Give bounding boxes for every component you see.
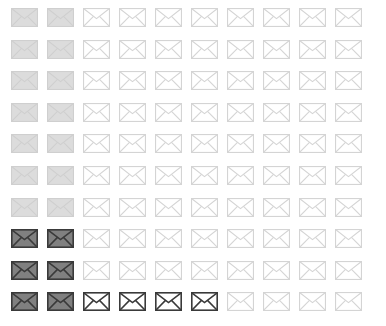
envelope-icon xyxy=(155,166,182,185)
envelope-icon xyxy=(119,40,146,59)
pictogram-cell xyxy=(119,166,155,198)
envelope-icon xyxy=(191,103,218,122)
pictogram-cell xyxy=(263,166,299,198)
pictogram-cell xyxy=(227,292,263,324)
envelope-icon xyxy=(83,103,110,122)
envelope-icon xyxy=(335,71,362,90)
pictogram-cell xyxy=(11,261,47,293)
envelope-icon xyxy=(335,292,362,311)
pictogram-cell xyxy=(335,103,371,135)
envelope-icon xyxy=(227,103,254,122)
envelope-icon xyxy=(11,40,38,59)
pictogram-cell xyxy=(191,292,227,324)
envelope-icon xyxy=(191,134,218,153)
envelope-icon xyxy=(119,292,146,311)
envelope-icon xyxy=(11,134,38,153)
envelope-icon xyxy=(47,198,74,217)
pictogram-cell xyxy=(11,166,47,198)
envelope-icon xyxy=(299,261,326,280)
pictogram-cell xyxy=(83,40,119,72)
envelope-icon xyxy=(191,8,218,27)
envelope-icon xyxy=(11,261,38,280)
envelope-icon xyxy=(155,198,182,217)
pictogram-cell xyxy=(335,8,371,40)
pictogram-cell xyxy=(191,40,227,72)
pictogram-cell xyxy=(11,198,47,230)
pictogram-cell xyxy=(119,261,155,293)
envelope-icon xyxy=(299,166,326,185)
envelope-icon xyxy=(227,261,254,280)
envelope-icon xyxy=(11,71,38,90)
pictogram-cell xyxy=(83,261,119,293)
envelope-icon xyxy=(299,8,326,27)
pictogram-cell xyxy=(47,71,83,103)
envelope-icon xyxy=(263,198,290,217)
pictogram-cell xyxy=(11,40,47,72)
envelope-icon xyxy=(83,261,110,280)
pictogram-cell xyxy=(227,71,263,103)
envelope-icon xyxy=(227,292,254,311)
pictogram-cell xyxy=(335,71,371,103)
envelope-icon xyxy=(263,8,290,27)
pictogram-cell xyxy=(155,198,191,230)
envelope-icon xyxy=(191,166,218,185)
pictogram-cell xyxy=(191,229,227,261)
envelope-icon xyxy=(11,292,38,311)
envelope-icon xyxy=(263,261,290,280)
pictogram-cell xyxy=(191,261,227,293)
envelope-icon xyxy=(11,103,38,122)
pictogram-cell xyxy=(299,134,335,166)
pictogram-cell xyxy=(119,40,155,72)
pictogram-cell xyxy=(119,71,155,103)
pictogram-cell xyxy=(263,103,299,135)
pictogram-cell xyxy=(227,166,263,198)
envelope-icon xyxy=(119,166,146,185)
pictogram-cell xyxy=(263,8,299,40)
pictogram-cell xyxy=(11,229,47,261)
pictogram-cell xyxy=(83,134,119,166)
envelope-icon xyxy=(227,198,254,217)
pictogram-cell xyxy=(119,229,155,261)
pictogram-cell xyxy=(299,103,335,135)
envelope-icon xyxy=(191,71,218,90)
pictogram-cell xyxy=(299,229,335,261)
envelope-icon xyxy=(263,40,290,59)
envelope-icon xyxy=(335,103,362,122)
envelope-icon xyxy=(191,40,218,59)
envelope-icon xyxy=(227,134,254,153)
envelope-icon xyxy=(47,261,74,280)
envelope-icon xyxy=(83,71,110,90)
envelope-icon xyxy=(155,103,182,122)
envelope-icon xyxy=(83,40,110,59)
pictogram-cell xyxy=(227,103,263,135)
envelope-icon xyxy=(227,229,254,248)
envelope-icon xyxy=(155,71,182,90)
pictogram-cell xyxy=(11,8,47,40)
envelope-icon xyxy=(11,8,38,27)
pictogram-cell xyxy=(299,71,335,103)
pictogram-cell xyxy=(47,229,83,261)
envelope-icon xyxy=(83,166,110,185)
pictogram-cell xyxy=(47,261,83,293)
pictogram-cell xyxy=(155,103,191,135)
pictogram-cell xyxy=(11,134,47,166)
envelope-icon xyxy=(335,198,362,217)
pictogram-cell xyxy=(155,292,191,324)
envelope-icon xyxy=(263,229,290,248)
pictogram-cell xyxy=(155,71,191,103)
pictogram-cell xyxy=(263,229,299,261)
pictogram-cell xyxy=(227,229,263,261)
envelope-icon xyxy=(155,229,182,248)
pictogram-cell xyxy=(83,8,119,40)
envelope-icon xyxy=(83,134,110,153)
pictogram-cell xyxy=(263,261,299,293)
pictogram-cell xyxy=(155,134,191,166)
envelope-icon xyxy=(335,134,362,153)
envelope-icon xyxy=(47,166,74,185)
pictogram-cell xyxy=(47,103,83,135)
pictogram-cell xyxy=(11,292,47,324)
pictogram-cell xyxy=(11,71,47,103)
pictogram-cell xyxy=(263,71,299,103)
envelope-grid xyxy=(0,0,386,326)
pictogram-cell xyxy=(227,40,263,72)
